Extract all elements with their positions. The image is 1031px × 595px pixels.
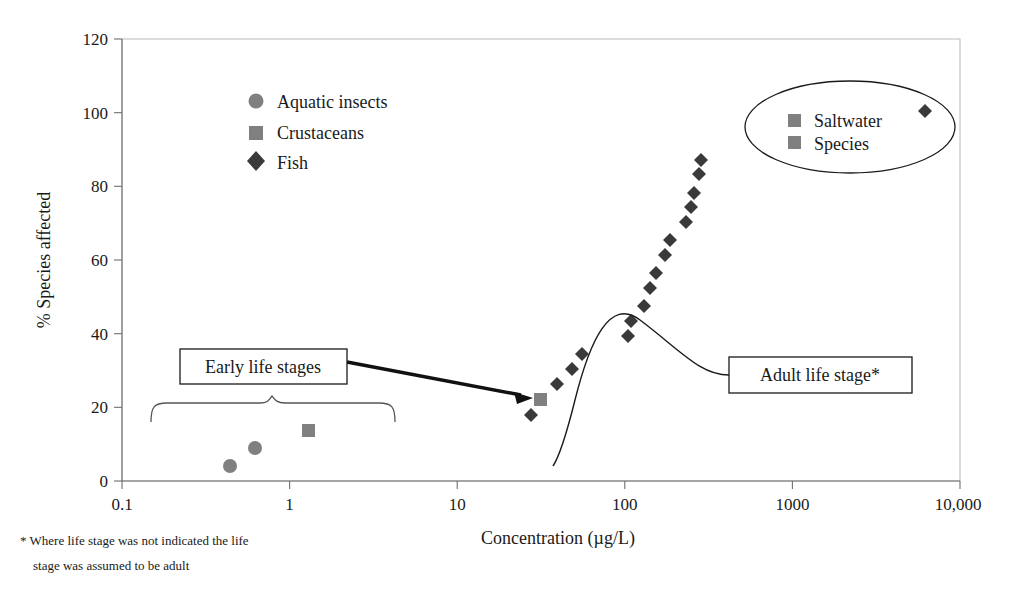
data-point (658, 248, 672, 262)
early-life-stages-arrow (347, 362, 533, 404)
y-axis-title: % Species affected (34, 192, 54, 329)
data-point (302, 424, 315, 437)
footnote-line-2: stage was assumed to be adult (33, 558, 190, 573)
x-tick-label-0.1: 0.1 (111, 495, 132, 514)
data-point (649, 266, 663, 280)
y-tick-label-120: 120 (83, 30, 109, 49)
data-point (692, 167, 706, 181)
x-tick-label-10: 10 (449, 495, 466, 514)
data-point (679, 215, 693, 229)
x-axis-title: Concentration (µg/L) (481, 528, 635, 549)
arrow-shaft (347, 362, 521, 395)
legend-label-fish: Fish (277, 153, 308, 173)
legend-marker-circle-icon (249, 94, 264, 109)
saltwater-species-label-line2: Species (814, 134, 869, 154)
data-point (565, 362, 579, 376)
data-point (223, 459, 237, 473)
y-axis-ticks (114, 39, 122, 481)
legend-marker-diamond-icon (247, 151, 265, 171)
data-point (918, 104, 932, 118)
early-life-stages-label: Early life stages (205, 357, 321, 377)
legend-marker-square-icon (249, 126, 263, 140)
series-aquatic-insects (223, 441, 262, 473)
legend-label-aquatic-insects: Aquatic insects (277, 92, 387, 112)
data-point (248, 441, 262, 455)
adult-life-stage-connector (553, 314, 729, 466)
adult-life-stage-label: Adult life stage* (760, 365, 880, 385)
data-point (637, 299, 651, 313)
series-crustaceans (302, 393, 547, 437)
arrow-head-icon (514, 392, 533, 404)
saltwater-marker-square-icon (788, 114, 801, 127)
footnote-line-1: * Where life stage was not indicated the… (20, 533, 249, 548)
data-point (534, 393, 547, 406)
x-tick-label-100: 100 (612, 495, 638, 514)
data-point (694, 153, 708, 167)
chart-legend: Aquatic insects Crustaceans Fish (247, 92, 387, 173)
x-axis-ticks (122, 481, 960, 489)
x-tick-label-1000: 1000 (775, 495, 809, 514)
x-tick-label-10000: 10,000 (935, 495, 982, 514)
y-tick-label-0: 0 (100, 472, 109, 491)
plot-area-border (122, 39, 960, 481)
data-point (550, 377, 564, 391)
y-tick-label-20: 20 (91, 398, 108, 417)
data-point (624, 314, 638, 328)
data-point (687, 186, 701, 200)
x-tick-label-1: 1 (285, 495, 294, 514)
scatter-plot: 0 20 40 60 80 100 120 0.1 1 10 100 1000 … (0, 0, 1031, 595)
saltwater-species-label-line1: Saltwater (814, 111, 882, 131)
data-point (621, 329, 635, 343)
early-life-stages-brace (151, 396, 395, 422)
y-tick-label-80: 80 (91, 177, 108, 196)
data-point (684, 200, 698, 214)
legend-label-crustaceans: Crustaceans (277, 123, 364, 143)
data-point (643, 281, 657, 295)
data-point (524, 408, 538, 422)
saltwater-marker-square-icon (788, 136, 801, 149)
y-tick-label-60: 60 (91, 251, 108, 270)
data-point (663, 233, 677, 247)
chart-figure: 0 20 40 60 80 100 120 0.1 1 10 100 1000 … (0, 0, 1031, 595)
y-tick-label-40: 40 (91, 325, 108, 344)
y-tick-label-100: 100 (83, 104, 109, 123)
